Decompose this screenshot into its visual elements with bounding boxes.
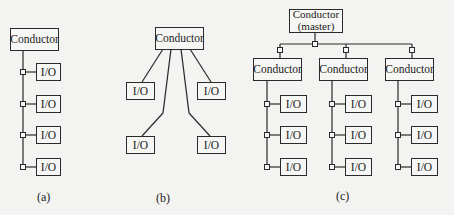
io-node: I/O (36, 63, 61, 81)
io-node: I/O (345, 158, 372, 176)
io-node: I/O (126, 136, 155, 154)
io-node: I/O (411, 95, 438, 113)
conductor-node: Conductor (155, 27, 204, 50)
io-node: I/O (36, 126, 61, 144)
io-node: I/O (36, 95, 61, 113)
connection-lines (0, 0, 454, 215)
conductor-node: Conductor (10, 28, 59, 51)
io-node: I/O (280, 158, 307, 176)
panel-caption: (c) (336, 189, 349, 204)
io-node: I/O (411, 126, 438, 144)
io-node: I/O (411, 158, 438, 176)
io-node: I/O (126, 82, 155, 100)
diagram-canvas: Conductor I/O I/O I/O I/O (a) Conductor … (0, 0, 454, 215)
io-node: I/O (36, 158, 61, 176)
io-node: I/O (197, 136, 226, 154)
star-link (142, 49, 163, 82)
master-conductor-node: Conductor (master) (289, 9, 343, 33)
io-node: I/O (280, 95, 307, 113)
conductor-node: Conductor (253, 58, 302, 81)
panel-caption: (a) (37, 190, 50, 205)
io-node: I/O (280, 126, 307, 144)
conductor-node: Conductor (385, 58, 434, 81)
io-node: I/O (345, 95, 372, 113)
io-node: I/O (197, 82, 226, 100)
conductor-node: Conductor (319, 58, 368, 81)
io-node: I/O (345, 126, 372, 144)
panel-caption: (b) (156, 191, 170, 206)
